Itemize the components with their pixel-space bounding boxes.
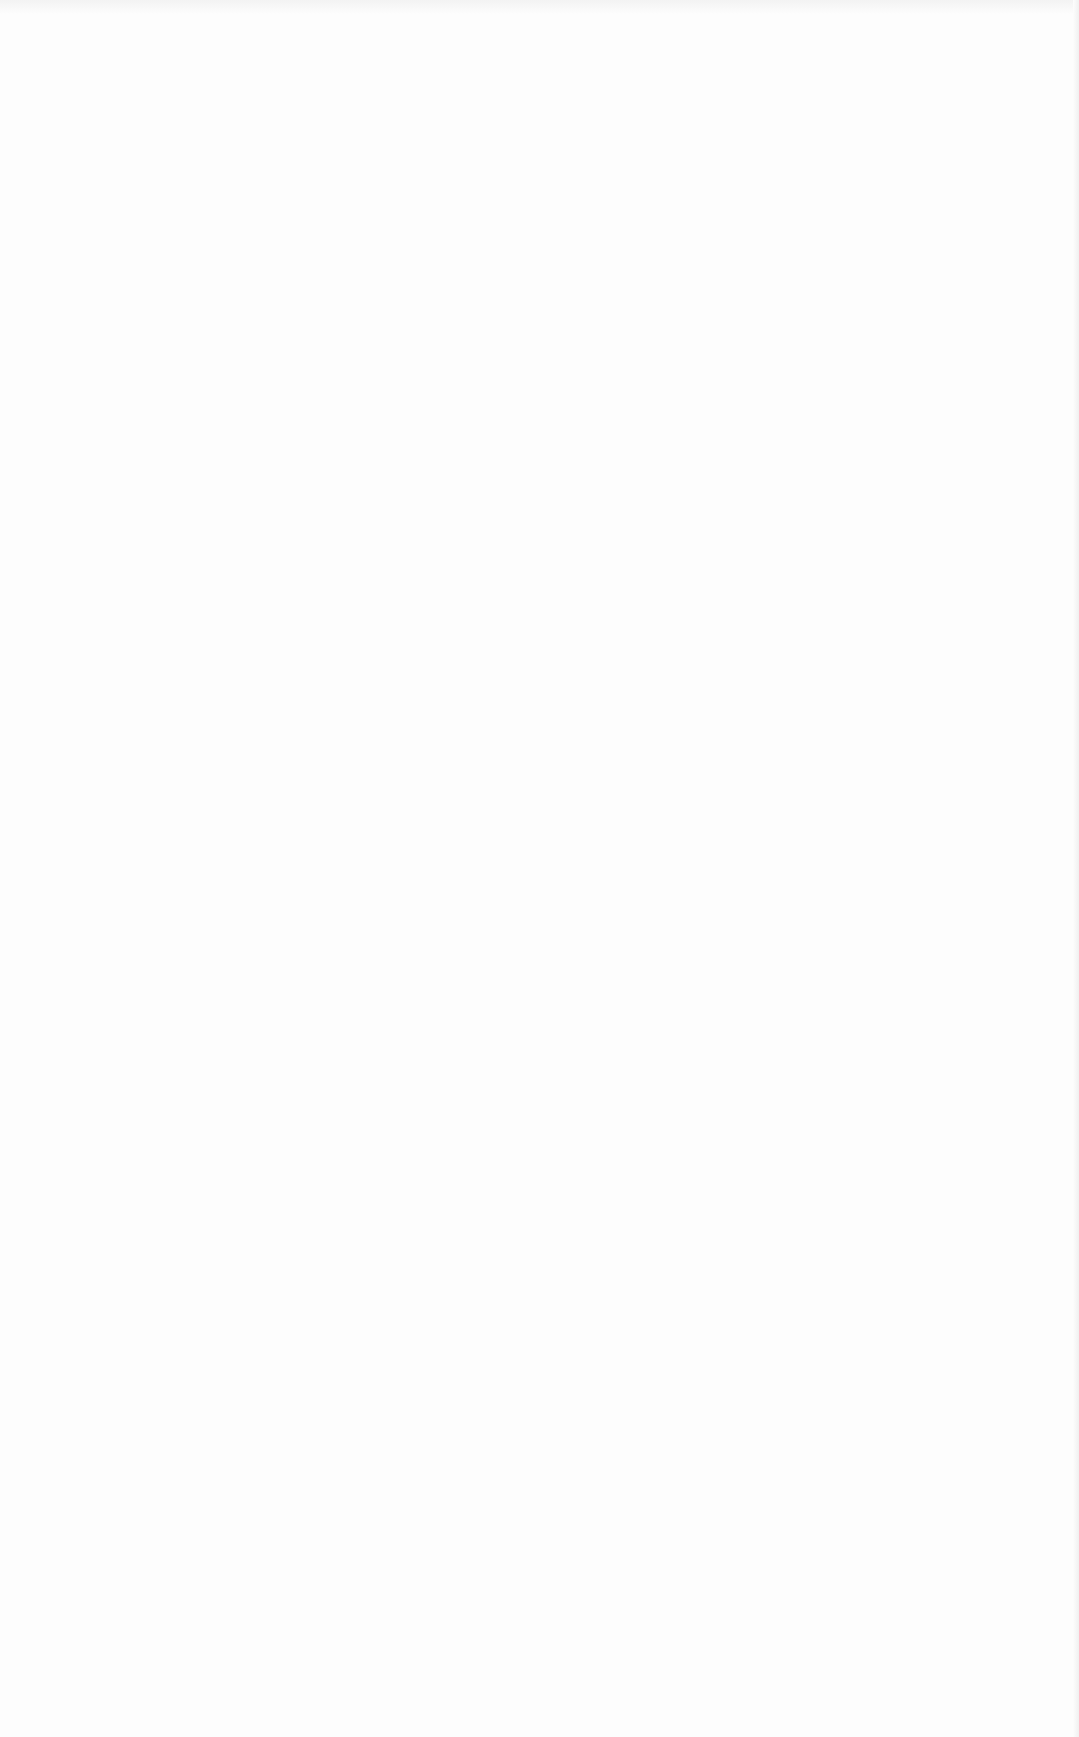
blank-page [0,0,1079,1737]
page-top-edge-shadow [0,0,1079,14]
page-right-edge-shadow [1073,0,1079,1737]
